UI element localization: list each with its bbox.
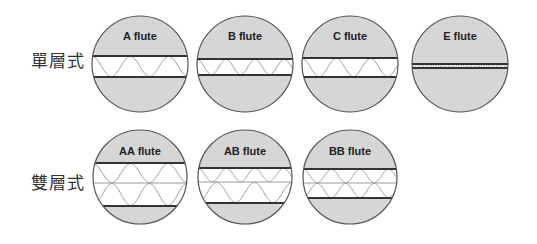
flute-aa-circle: AA flute <box>93 130 188 224</box>
flute-title: A flute <box>123 30 157 42</box>
flute-title: AA flute <box>119 145 161 157</box>
flute-e-circle: E flute <box>412 16 508 112</box>
flute-c-circle: C flute <box>302 16 398 112</box>
flute-bb-circle: BB flute <box>303 130 398 224</box>
flute-title: BB flute <box>329 145 371 157</box>
flute-title: AB flute <box>224 145 266 157</box>
flute-title: C flute <box>333 30 367 42</box>
flute-a-circle: A flute <box>92 16 188 112</box>
flute-diagram: A flute B flute C flute E flute AA flute… <box>0 0 537 244</box>
flute-ab-circle: AB flute <box>198 130 293 224</box>
flute-b-circle: B flute <box>197 16 293 112</box>
flute-title: B flute <box>228 30 262 42</box>
flute-title: E flute <box>443 30 477 42</box>
